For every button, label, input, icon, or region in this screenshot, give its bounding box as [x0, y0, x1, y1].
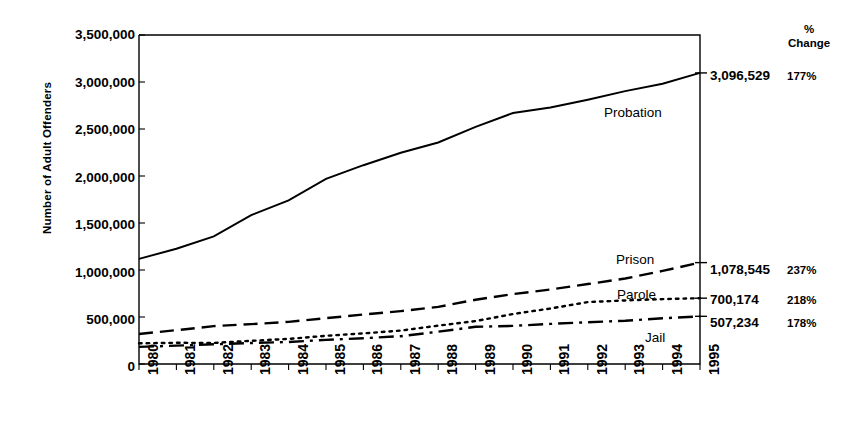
y-axis-ticks [139, 35, 145, 364]
plot-area [0, 0, 863, 443]
pct-change-probation: 177% [787, 70, 816, 82]
value-leader-lines [695, 73, 707, 316]
series-line-prison [139, 263, 700, 334]
end-value-parole: 700,174 [710, 292, 759, 307]
series-label-jail: Jail [645, 330, 665, 345]
end-value-probation: 3,096,529 [710, 68, 770, 83]
series-label-probation: Probation [604, 105, 662, 120]
axis-frame [139, 35, 700, 364]
end-value-jail: 507,234 [710, 315, 759, 330]
series-line-probation [139, 73, 700, 259]
pct-change-prison: 237% [787, 264, 816, 276]
pct-change-parole: 218% [787, 294, 816, 306]
pct-change-jail: 178% [787, 317, 816, 329]
series-line-parole [139, 298, 700, 343]
series-label-parole: Parole [617, 287, 656, 302]
x-axis-ticks [139, 364, 700, 370]
end-value-prison: 1,078,545 [710, 262, 770, 277]
series-label-prison: Prison [616, 252, 654, 267]
chart-container: Number of Adult Offenders 3,500,000 3,00… [0, 0, 863, 443]
pct-change-header-line2: Change [774, 36, 844, 50]
pct-change-header: % Change [774, 22, 844, 51]
pct-change-header-line1: % [774, 22, 844, 36]
